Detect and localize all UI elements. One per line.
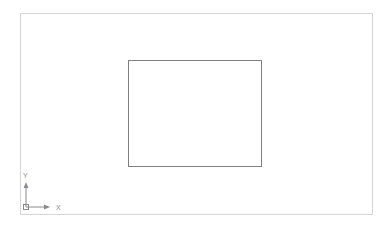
rectangle-entity[interactable] [128, 60, 262, 167]
ucs-coordinate-icon: Y X [14, 170, 74, 218]
ucs-y-axis-label: Y [23, 172, 28, 179]
ucs-x-axis-label: X [56, 204, 61, 211]
ucs-x-axis-arrowhead [44, 205, 50, 210]
ucs-y-axis-arrowhead [24, 182, 29, 188]
drawing-canvas[interactable]: Y X [0, 0, 392, 227]
